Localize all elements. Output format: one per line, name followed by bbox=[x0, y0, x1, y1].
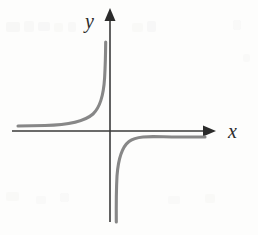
hyperbola-upper-left-branch bbox=[18, 42, 106, 126]
graph-canvas: y x bbox=[0, 0, 258, 235]
x-axis-label: x bbox=[227, 120, 237, 142]
x-axis-arrowhead bbox=[203, 126, 216, 137]
y-axis-arrowhead bbox=[105, 8, 116, 21]
y-axis-label: y bbox=[83, 10, 94, 33]
hyperbola-lower-right-branch bbox=[116, 137, 205, 222]
hyperbola-figure: y x bbox=[0, 0, 258, 235]
